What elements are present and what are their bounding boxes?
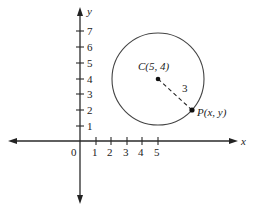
x-tick-label-5: 5 xyxy=(154,146,160,158)
x-axis-right-arrow-icon xyxy=(229,138,238,144)
y-tick-label-4: 4 xyxy=(87,73,93,85)
x-axis-label: x xyxy=(240,135,246,147)
x-tick-label-4: 4 xyxy=(138,146,144,158)
y-tick-label-3: 3 xyxy=(87,88,93,100)
y-axis-label: y xyxy=(86,5,92,17)
x-axis-left-arrow-icon xyxy=(8,138,17,144)
y-tick-label-5: 5 xyxy=(87,57,93,69)
radius-label: 3 xyxy=(182,82,188,94)
x-tick-label-1: 1 xyxy=(92,146,98,158)
x-tick-label-2: 2 xyxy=(107,146,113,158)
y-tick-label-1: 1 xyxy=(87,120,93,132)
y-axis-up-arrow-icon xyxy=(77,7,83,16)
center-point xyxy=(156,77,161,82)
y-tick-label-7: 7 xyxy=(87,25,93,37)
x-tick-label-3: 3 xyxy=(123,146,129,158)
coordinate-plane: 1 2 3 4 5 1 2 3 4 5 6 7 0 x y C(5, 4) 3 … xyxy=(0,0,258,214)
origin-label: 0 xyxy=(71,146,77,158)
x-axis xyxy=(8,138,238,144)
y-tick-label-6: 6 xyxy=(87,41,93,53)
point-p xyxy=(189,107,194,112)
point-label: P(x, y) xyxy=(196,106,227,119)
y-tick-label-2: 2 xyxy=(87,104,93,116)
y-axis-down-arrow-icon xyxy=(77,195,83,204)
center-label: C(5, 4) xyxy=(138,60,170,73)
y-axis xyxy=(77,7,83,204)
